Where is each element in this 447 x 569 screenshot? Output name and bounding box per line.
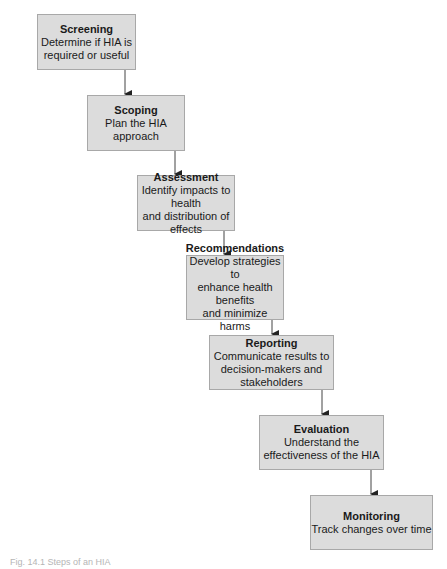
step-description: Understand the effectiveness of the HIA: [264, 436, 380, 462]
step-description: Track changes over time: [311, 523, 431, 536]
step-title: Monitoring: [343, 510, 400, 523]
step-title: Reporting: [246, 337, 298, 350]
step-reporting: Reporting Communicate results to decisio…: [209, 335, 334, 390]
step-title: Scoping: [114, 104, 157, 117]
step-description: Develop strategies to enhance health ben…: [187, 255, 283, 333]
step-screening: Screening Determine if HIA is required o…: [37, 14, 136, 70]
step-scoping: Scoping Plan the HIA approach: [87, 95, 185, 151]
step-description: Determine if HIA is required or useful: [41, 36, 132, 62]
step-assessment: Assessment Identify impacts to health an…: [137, 175, 235, 231]
step-title: Screening: [60, 23, 113, 36]
step-description: Plan the HIA approach: [88, 117, 184, 143]
step-title: Recommendations: [186, 242, 284, 255]
step-title: Evaluation: [294, 423, 350, 436]
step-evaluation: Evaluation Understand the effectiveness …: [259, 415, 384, 470]
step-title: Assessment: [154, 171, 219, 184]
step-monitoring: Monitoring Track changes over time: [310, 495, 433, 550]
step-description: Communicate results to decision-makers a…: [214, 350, 330, 389]
figure-caption: Fig. 14.1 Steps of an HIA: [10, 557, 111, 567]
step-recommendations: Recommendations Develop strategies to en…: [186, 255, 284, 320]
step-description: Identify impacts to health and distribut…: [138, 184, 234, 236]
